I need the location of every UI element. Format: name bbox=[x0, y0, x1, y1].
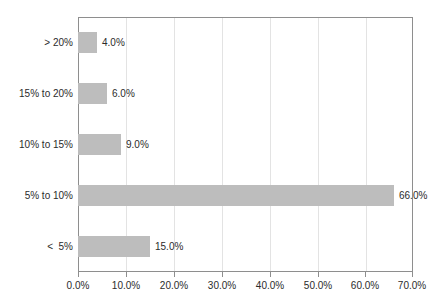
xtick-label-20: 20.0% bbox=[160, 280, 188, 291]
bar-band: 9.0% bbox=[78, 119, 413, 170]
bar-band: 4.0% bbox=[78, 17, 413, 68]
xtick-mark-70 bbox=[412, 272, 413, 277]
bar-value-label: 4.0% bbox=[97, 32, 125, 53]
xtick-label-30: 30.0% bbox=[208, 280, 236, 291]
xtick-mark-60 bbox=[365, 272, 366, 277]
bars-layer: 4.0% 6.0% 9.0% 66.0% 15.0% bbox=[78, 17, 413, 272]
bar-band: 6.0% bbox=[78, 68, 413, 119]
xtick-mark-30 bbox=[222, 272, 223, 277]
bar bbox=[78, 32, 97, 53]
bar-chart: 4.0% 6.0% 9.0% 66.0% 15.0% > 20% 15% to … bbox=[0, 0, 445, 307]
xtick-label-10: 10.0% bbox=[112, 280, 140, 291]
xtick-label-40: 40.0% bbox=[256, 280, 284, 291]
xtick-label-70: 70.0% bbox=[398, 280, 426, 291]
bar bbox=[78, 83, 107, 104]
bar-band: 15.0% bbox=[78, 221, 413, 272]
xtick-label-50: 50.0% bbox=[304, 280, 332, 291]
bar-value-label: 66.0% bbox=[394, 185, 427, 206]
category-label-5-to-10: 5% to 10% bbox=[25, 185, 73, 206]
category-label-10-to-15: 10% to 15% bbox=[19, 134, 73, 155]
category-label-15-to-20: 15% to 20% bbox=[19, 83, 73, 104]
xtick-label-60: 60.0% bbox=[351, 280, 379, 291]
xtick-mark-50 bbox=[318, 272, 319, 277]
xtick-mark-20 bbox=[174, 272, 175, 277]
category-label-lt-5: < 5% bbox=[47, 236, 73, 257]
bar-value-label: 15.0% bbox=[150, 236, 183, 257]
bar bbox=[78, 185, 394, 206]
category-label-gt-20: > 20% bbox=[44, 32, 73, 53]
bar-band: 66.0% bbox=[78, 170, 413, 221]
bar bbox=[78, 134, 121, 155]
xtick-mark-0 bbox=[78, 272, 79, 277]
xtick-label-0: 0.0% bbox=[67, 280, 90, 291]
bar bbox=[78, 236, 150, 257]
bar-value-label: 6.0% bbox=[107, 83, 135, 104]
bar-value-label: 9.0% bbox=[121, 134, 149, 155]
xtick-mark-40 bbox=[270, 272, 271, 277]
xtick-mark-10 bbox=[126, 272, 127, 277]
